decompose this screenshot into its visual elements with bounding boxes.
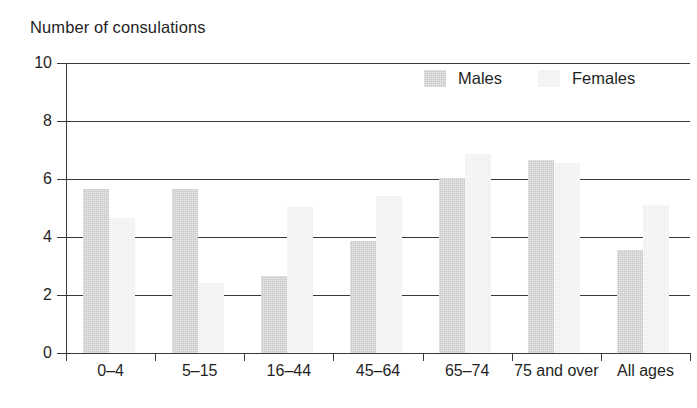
- bar-male-1[interactable]: [172, 189, 198, 353]
- x-axis-line: [66, 353, 690, 354]
- y-tick-label-4: 4: [22, 229, 52, 245]
- bar-male-3[interactable]: [350, 241, 376, 353]
- bar-female-4[interactable]: [465, 154, 491, 353]
- bar-male-2[interactable]: [261, 276, 287, 353]
- bar-female-0[interactable]: [109, 218, 135, 353]
- y-axis-labels: 0246810: [22, 63, 52, 354]
- y-tick-4: [57, 237, 66, 238]
- plot-area: [66, 63, 690, 353]
- y-tick-label-8: 8: [22, 113, 52, 129]
- chart-title: Number of consulations: [30, 18, 206, 37]
- bar-female-6[interactable]: [643, 205, 669, 353]
- y-tick-0: [57, 353, 66, 354]
- y-tick-6: [57, 179, 66, 180]
- x-tick-label-5: 75 and over: [512, 362, 601, 380]
- bar-male-0[interactable]: [83, 189, 109, 353]
- x-tick-label-2: 16–44: [244, 362, 333, 380]
- x-tick-label-6: All ages: [601, 362, 690, 380]
- y-tick-8: [57, 121, 66, 122]
- bar-male-6[interactable]: [617, 250, 643, 353]
- legend-label-females: Females: [572, 69, 635, 88]
- x-tick-label-3: 45–64: [333, 362, 422, 380]
- bar-group-2: [261, 63, 313, 353]
- x-tick-2: [244, 353, 245, 361]
- bar-female-2[interactable]: [287, 207, 313, 353]
- bar-chart: Number of consulations 0246810 Males Fem…: [0, 0, 697, 408]
- legend-swatch-males-icon: [424, 70, 446, 87]
- bar-group-0: [83, 63, 135, 353]
- y-tick-label-0: 0: [22, 345, 52, 361]
- bar-female-5[interactable]: [554, 163, 580, 353]
- legend-swatch-females-icon: [538, 70, 560, 87]
- x-tick-0: [66, 353, 67, 361]
- x-tick-4: [423, 353, 424, 361]
- y-tick-label-2: 2: [22, 287, 52, 303]
- bar-male-5[interactable]: [528, 160, 554, 353]
- bar-group-3: [350, 63, 402, 353]
- bar-male-4[interactable]: [439, 178, 465, 353]
- y-tick-label-10: 10: [22, 55, 52, 71]
- x-tick-1: [155, 353, 156, 361]
- x-tick-end: [690, 353, 691, 361]
- y-tick-2: [57, 295, 66, 296]
- x-tick-label-1: 5–15: [155, 362, 244, 380]
- x-tick-label-0: 0–4: [66, 362, 155, 380]
- bar-group-6: [617, 63, 669, 353]
- bar-female-3[interactable]: [376, 196, 402, 353]
- x-tick-label-4: 65–74: [423, 362, 512, 380]
- x-tick-3: [333, 353, 334, 361]
- x-tick-5: [512, 353, 513, 361]
- x-tick-6: [601, 353, 602, 361]
- y-tick-label-6: 6: [22, 171, 52, 187]
- bar-female-1[interactable]: [198, 283, 224, 353]
- legend-label-males: Males: [458, 69, 502, 88]
- chart-legend: Males Females: [424, 66, 635, 90]
- bar-group-4: [439, 63, 491, 353]
- bar-group-5: [528, 63, 580, 353]
- y-tick-10: [57, 63, 66, 64]
- legend-item-females: Females: [538, 69, 635, 88]
- bar-group-1: [172, 63, 224, 353]
- legend-item-males: Males: [424, 69, 502, 88]
